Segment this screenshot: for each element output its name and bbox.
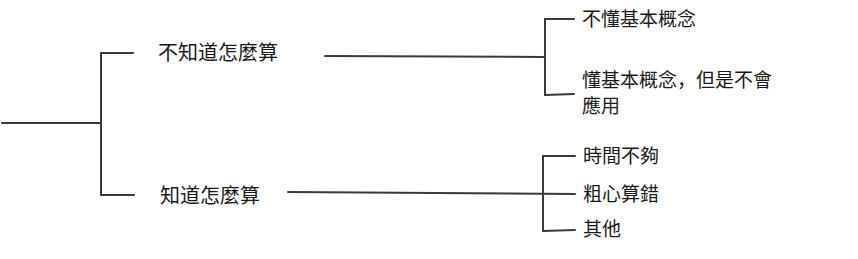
node-known-how: 知道怎麼算: [160, 186, 260, 206]
node-unknown-how: 不知道怎麼算: [158, 43, 278, 63]
leaf-stub-other: [543, 230, 575, 231]
branch-line-unknown: [325, 56, 545, 57]
leaf-not-enough-time: 時間不夠: [583, 147, 659, 166]
leaf-careless-error: 粗心算錯: [583, 185, 659, 204]
leaf-other: 其他: [583, 220, 621, 239]
branch-line-known: [288, 192, 575, 194]
tree-connectors: [0, 0, 858, 259]
leaf-cannot-apply-line1: 懂基本概念，但是不會: [582, 67, 822, 93]
leaf-no-concept: 不懂基本概念: [582, 10, 696, 29]
leaf-cannot-apply-line2: 應用: [582, 93, 822, 119]
leaf-cannot-apply: 懂基本概念，但是不會 應用: [582, 67, 822, 119]
leaf-stub-cannot-apply: [545, 94, 574, 95]
